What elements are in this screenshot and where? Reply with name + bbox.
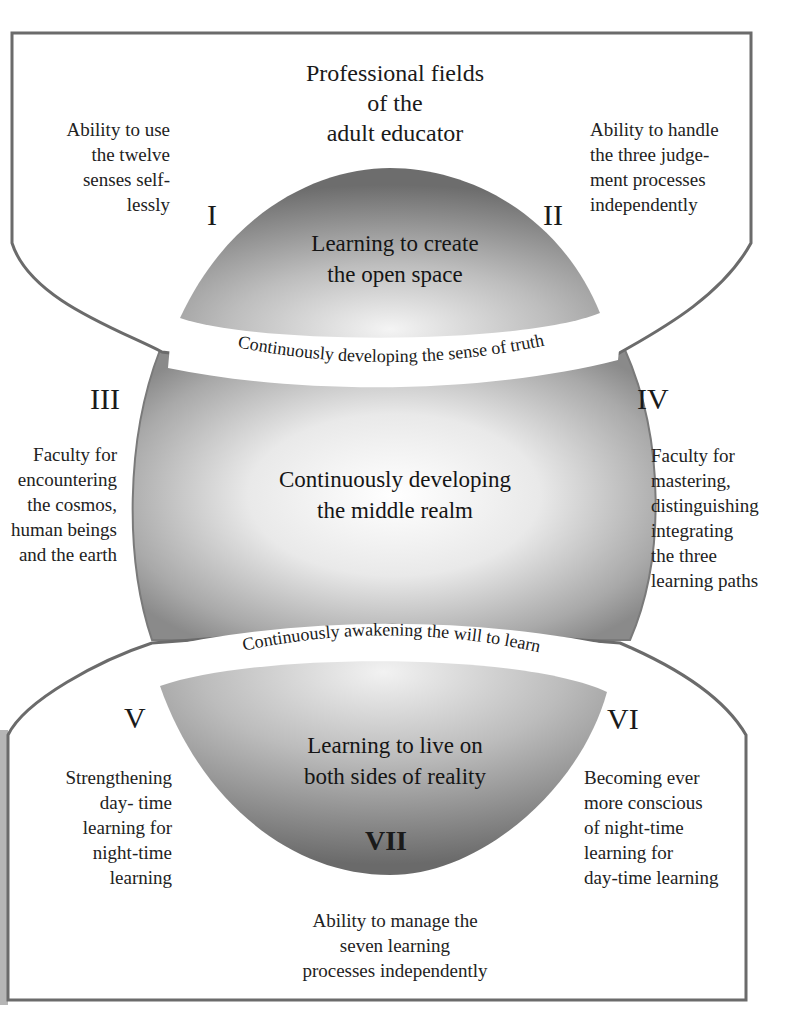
field-VII-text: Ability to manage the seven learning pro… — [270, 908, 520, 983]
field-V-text: Strengthening day- time learning for nig… — [30, 765, 172, 890]
title-line: Professional fields — [250, 58, 540, 88]
numeral-III: III — [90, 384, 120, 414]
core-top-text: Learning to create the open space — [245, 228, 545, 290]
numeral-II: II — [543, 200, 563, 230]
field-VI-text: Becoming ever more conscious of night-ti… — [584, 765, 744, 890]
core-middle-text: Continuously developing the middle realm — [225, 464, 565, 526]
title-line: of the — [250, 88, 540, 118]
numeral-IV: IV — [637, 384, 669, 414]
core-bottom-text: Learning to live on both sides of realit… — [240, 730, 550, 792]
numeral-VII: VII — [365, 826, 407, 856]
field-II-text: Ability to handle the three judge- ment … — [590, 117, 760, 217]
numeral-VI: VI — [607, 704, 639, 734]
title-line: adult educator — [250, 118, 540, 148]
field-I-text: Ability to use the twelve senses self- l… — [30, 117, 170, 217]
field-IV-text: Faculty for mastering, distinguishing in… — [651, 443, 789, 593]
diagram-title: Professional fields of the adult educato… — [250, 58, 540, 148]
numeral-I: I — [207, 200, 217, 230]
numeral-V: V — [124, 703, 146, 733]
field-III-text: Faculty for encountering the cosmos, hum… — [0, 442, 117, 567]
